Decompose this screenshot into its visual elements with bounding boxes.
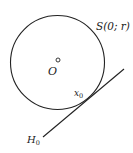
- tangent-hyperplane-line: [43, 69, 124, 137]
- hyperplane-label: H0: [26, 134, 40, 147]
- center-point: [56, 58, 60, 62]
- tangent-point-label: x0: [74, 88, 83, 100]
- center-label: O: [48, 65, 57, 78]
- sphere-circle: [11, 16, 105, 110]
- sphere-tangent-diagram: S(0; r) O x0 H0: [0, 0, 133, 153]
- sphere-label: S(0; r): [96, 20, 130, 32]
